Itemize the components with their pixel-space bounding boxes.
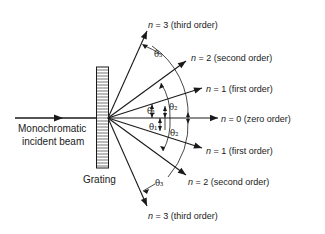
incident-beam-label-line2: incident beam: [22, 136, 84, 147]
order-label-n1-up: n = 1 (first order): [206, 84, 273, 94]
order-label-n2-up: n = 2 (second order): [191, 53, 272, 63]
grating-label: Grating: [83, 174, 116, 185]
arrowhead-n0: [210, 115, 218, 121]
arc-arrowhead: [158, 118, 162, 123]
arc-arrowhead: [143, 189, 149, 194]
order-label-n1-down: n = 1 (first order): [206, 146, 273, 156]
arrowhead-n2-up: [178, 61, 186, 68]
ray-n3-down: [108, 118, 147, 206]
diffraction-grating-diagram: θ₁ θ₂ θ₁ θ₂ θ₃ θ₃ Monochromatic incident…: [0, 0, 325, 234]
ray-n3-up: [108, 31, 147, 118]
arrowhead-n1-down: [193, 143, 202, 149]
arc-arrowhead: [186, 112, 190, 117]
arc-arrowhead: [160, 146, 165, 151]
arrowhead-n1-up: [193, 87, 202, 93]
incident-beam-arrowhead: [54, 115, 63, 122]
theta2-arc: [161, 83, 170, 151]
order-label-n3-down: n = 3 (third order): [148, 211, 218, 221]
theta3-lower-leader: [143, 184, 155, 191]
arc-arrowhead: [163, 113, 167, 118]
theta2-lower-label: θ₂: [170, 128, 179, 138]
arc-arrowhead: [163, 106, 167, 111]
arrowhead-n3-down: [141, 197, 147, 206]
grating: [97, 67, 109, 168]
theta1-upper-label: θ₁: [147, 106, 156, 116]
incident-beam-label-line1: Monochromatic: [18, 123, 86, 134]
order-label-n2-down: n = 2 (second order): [188, 177, 269, 187]
arc-arrowhead: [186, 119, 190, 124]
theta1-lower-label: θ₁: [149, 122, 158, 132]
order-label-n0: n = 0 (zero order): [221, 114, 291, 124]
arc-arrowhead: [158, 126, 162, 131]
arrowhead-n3-up: [141, 31, 147, 40]
theta2-upper-label: θ₂: [169, 102, 178, 112]
theta3-lower-label: θ₃: [155, 178, 164, 188]
order-label-n3-up: n = 3 (third order): [148, 20, 218, 30]
arc-arrowhead: [159, 83, 164, 89]
arrowhead-n2-down: [178, 168, 186, 175]
ray-n2-down: [108, 118, 186, 175]
theta3-upper-label: θ₃: [154, 49, 163, 59]
